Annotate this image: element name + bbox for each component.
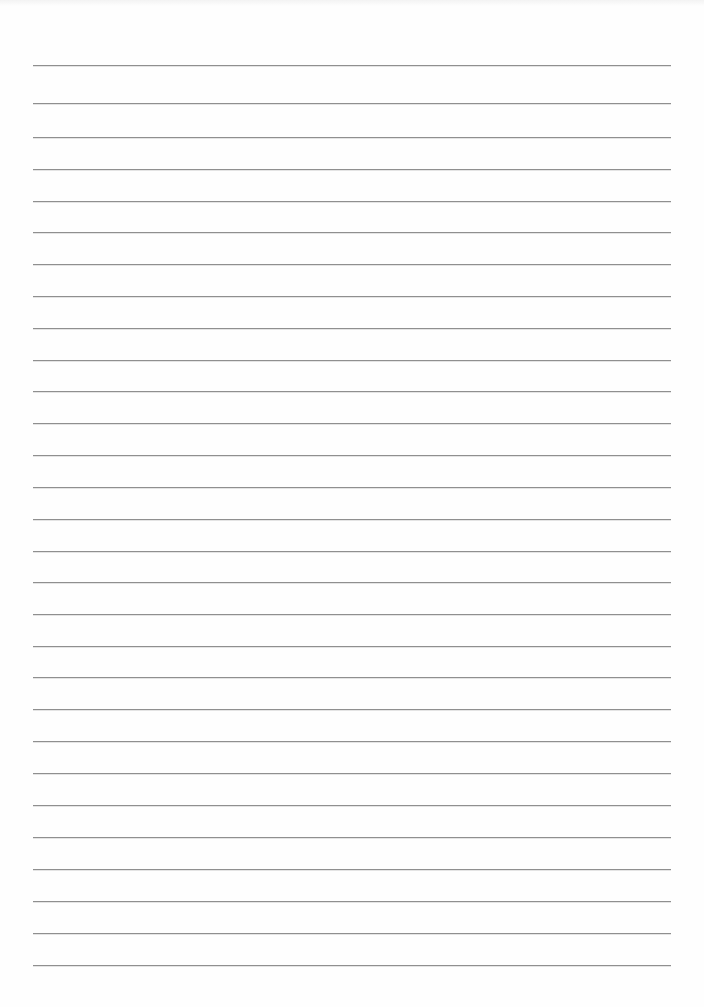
ruled-line: [33, 487, 671, 488]
ruled-line: [33, 232, 671, 233]
ruled-line: [33, 709, 671, 710]
ruled-paper-sheet: [0, 0, 704, 1007]
ruled-line: [33, 201, 671, 202]
ruled-line: [33, 103, 671, 104]
ruled-line: [33, 614, 671, 615]
ruled-line: [33, 933, 671, 934]
ruled-line: [33, 391, 671, 392]
ruled-line: [33, 901, 671, 902]
ruled-line: [33, 264, 671, 265]
ruled-line: [33, 677, 671, 678]
ruled-line: [33, 455, 671, 456]
ruled-line: [33, 773, 671, 774]
ruled-line: [33, 360, 671, 361]
ruled-line: [33, 519, 671, 520]
ruled-line: [33, 551, 671, 552]
ruled-line: [33, 965, 671, 966]
ruled-line: [33, 328, 671, 329]
ruled-line: [33, 837, 671, 838]
scan-edge-artifact: [0, 0, 704, 6]
ruled-line: [33, 741, 671, 742]
ruled-line: [33, 869, 671, 870]
ruled-line: [33, 646, 671, 647]
ruled-line: [33, 423, 671, 424]
ruled-line: [33, 296, 671, 297]
ruled-line: [33, 169, 671, 170]
ruled-line: [33, 582, 671, 583]
ruled-line: [33, 805, 671, 806]
ruled-line: [33, 137, 671, 138]
ruled-line: [33, 65, 671, 66]
